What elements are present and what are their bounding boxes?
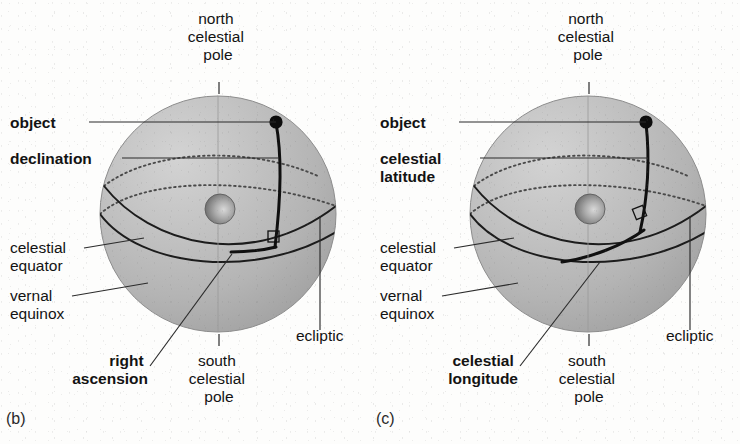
- celestial-equator-label-c: celestial equator: [380, 239, 440, 274]
- declination-label-b: declination: [10, 150, 92, 167]
- right-ascension-label-b: right ascension: [72, 352, 148, 387]
- panel-b: north celestial pole object declination …: [6, 10, 344, 427]
- south-celestial-pole-label-b: south celestial pole: [189, 352, 249, 405]
- object-label-b: object: [10, 114, 56, 131]
- south-celestial-pole-label-c: south celestial pole: [559, 352, 619, 405]
- north-celestial-pole-label-b: north celestial pole: [188, 10, 248, 63]
- north-celestial-pole-label-c: north celestial pole: [558, 10, 618, 63]
- object-label-c: object: [380, 114, 426, 131]
- panel-c: north celestial pole object celestial la…: [376, 10, 714, 427]
- earth-globe-b: [205, 194, 235, 224]
- earth-globe-c: [575, 194, 605, 224]
- figure-canvas: north celestial pole object declination …: [0, 0, 740, 444]
- celestial-equator-label-b: celestial equator: [10, 239, 70, 274]
- ecliptic-label-b: ecliptic: [296, 327, 344, 344]
- vernal-equinox-label-c: vernal equinox: [380, 287, 435, 322]
- vernal-equinox-label-b: vernal equinox: [10, 287, 65, 322]
- celestial-latitude-label-c: celestial latitude: [380, 150, 446, 185]
- celestial-coordinates-figure: north celestial pole object declination …: [0, 0, 740, 444]
- celestial-longitude-label-c: celestial longitude: [448, 352, 518, 387]
- ecliptic-label-c: ecliptic: [666, 327, 714, 344]
- panel-letter-b: (b): [6, 410, 26, 427]
- panel-letter-c: (c): [376, 410, 395, 427]
